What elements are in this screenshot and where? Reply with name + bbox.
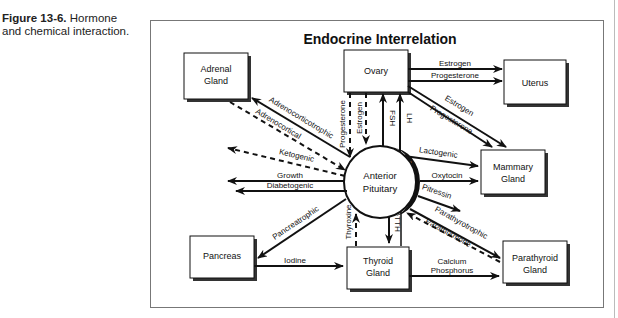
svg-text:Ovary: Ovary	[364, 66, 389, 76]
label-tth: TTH	[393, 216, 402, 232]
svg-text:Gland: Gland	[523, 265, 547, 275]
svg-text:Pituitary: Pituitary	[363, 183, 398, 194]
node-thyroid-gland: Thyroid Gland	[347, 247, 412, 292]
svg-text:Parathyroid: Parathyroid	[512, 253, 558, 263]
endocrine-diagram: Endocrine Interrelation Adrenal Gland Ov…	[0, 0, 618, 318]
svg-text:Gland: Gland	[501, 174, 525, 184]
label-oxytocin: Oxytocin	[431, 171, 462, 180]
label-thyroxine: Thyroxine	[344, 204, 353, 240]
svg-text:Mammary: Mammary	[493, 162, 533, 172]
node-parathyroid-gland: Parathyroid Gland	[503, 241, 570, 286]
label-progesterone-pit: Progesterone	[338, 99, 347, 148]
label-pancreatrophic: Pancreatrophic	[271, 204, 321, 242]
label-lh: LH	[405, 113, 414, 123]
diagram-title: Endocrine Interrelation	[303, 31, 456, 47]
label-calcium: Calcium	[438, 257, 467, 266]
svg-text:Thyroid: Thyroid	[363, 256, 393, 266]
svg-text:Uterus: Uterus	[522, 78, 549, 88]
node-adrenal-gland: Adrenal Gland	[184, 53, 251, 102]
label-growth: Growth	[277, 171, 303, 180]
label-phosphorus: Phosphorus	[431, 266, 474, 275]
svg-text:Gland: Gland	[366, 268, 390, 278]
svg-text:Pancreas: Pancreas	[203, 251, 242, 261]
svg-text:Adrenal: Adrenal	[200, 64, 231, 74]
node-pancreas: Pancreas	[190, 236, 257, 281]
svg-text:Anterior: Anterior	[363, 170, 396, 181]
node-ovary: Ovary	[344, 50, 411, 95]
label-progesterone-uterus: Progesterone	[431, 71, 480, 80]
svg-text:Gland: Gland	[204, 76, 228, 86]
label-lactogenic: Lactogenic	[419, 145, 459, 159]
label-fsh: FSH	[388, 110, 397, 126]
label-iodine: Iodine	[284, 256, 306, 265]
label-estrogen-pit: Estrogen	[355, 102, 364, 134]
node-uterus: Uterus	[504, 60, 569, 107]
label-diabetogenic: Diabetogenic	[267, 181, 314, 190]
node-mammary-gland: Mammary Gland	[481, 150, 548, 197]
label-estrogen-uterus: Estrogen	[439, 59, 471, 68]
